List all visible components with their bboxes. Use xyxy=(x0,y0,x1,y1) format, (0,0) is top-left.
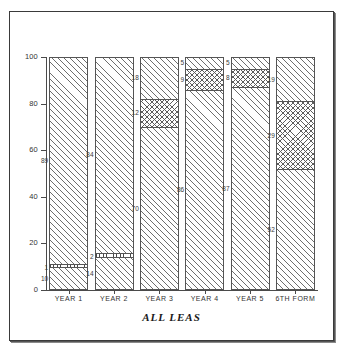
bar-6th-form[interactable]: 192952 xyxy=(276,57,315,290)
segment-value-label: 1 xyxy=(45,265,49,272)
chart-title: ALL LEAS xyxy=(10,311,333,323)
bar-segment: 89 xyxy=(49,57,88,264)
bar-segment: 18 xyxy=(140,57,179,99)
bar-group: 891108421418127059865887192952 xyxy=(46,57,318,290)
y-tick-label: 100 xyxy=(10,53,38,61)
y-tick-label: 80 xyxy=(10,100,38,108)
bar-segment: 52 xyxy=(276,169,315,290)
x-axis-label: 6TH FORM xyxy=(265,295,325,302)
x-tick-mark xyxy=(159,290,160,294)
y-tick-label: 40 xyxy=(10,193,38,201)
segment-value-label: 87 xyxy=(222,186,229,193)
bar-segment: 5 xyxy=(185,57,224,69)
y-tick-label: 60 xyxy=(10,146,38,154)
bar-year-3[interactable]: 181270 xyxy=(140,57,179,290)
bar-year-5[interactable]: 5887 xyxy=(231,57,270,290)
x-tick-mark xyxy=(69,290,70,294)
y-tick-label: 0 xyxy=(10,286,38,294)
bar-segment: 9 xyxy=(185,69,224,90)
bar-year-1[interactable]: 89110 xyxy=(49,57,88,290)
segment-value-label: 5 xyxy=(226,60,230,67)
segment-value-label: 12 xyxy=(132,110,139,117)
segment-value-label: 18 xyxy=(132,75,139,82)
x-tick-mark xyxy=(295,290,296,294)
bar-segment: 86 xyxy=(185,90,224,290)
bar-segment: 29 xyxy=(276,101,315,169)
x-axis-line xyxy=(46,290,318,291)
segment-value-label: 9 xyxy=(181,77,185,84)
segment-value-label: 70 xyxy=(132,206,139,213)
segment-value-label: 5 xyxy=(181,60,185,67)
chart-frame: 020406080100 891108421418127059865887192… xyxy=(9,11,334,341)
bar-segment: 12 xyxy=(140,99,179,127)
bar-year-2[interactable]: 84214 xyxy=(95,57,134,290)
segment-value-label: 84 xyxy=(86,152,93,159)
x-tick-mark xyxy=(205,290,206,294)
bar-segment: 70 xyxy=(140,127,179,290)
segment-value-label: 52 xyxy=(268,227,275,234)
segment-value-label: 14 xyxy=(86,271,93,278)
segment-value-label: 10 xyxy=(41,276,48,283)
segment-value-label: 86 xyxy=(177,187,184,194)
segment-value-label: 2 xyxy=(90,254,94,261)
y-tick-mark xyxy=(41,290,46,291)
bar-segment: 8 xyxy=(231,69,270,88)
segment-value-label: 8 xyxy=(226,75,230,82)
x-tick-mark xyxy=(250,290,251,294)
bar-segment: 19 xyxy=(276,57,315,101)
segment-value-label: 89 xyxy=(41,158,48,165)
segment-value-label: 19 xyxy=(268,77,275,84)
plot-area: 020406080100 891108421418127059865887192… xyxy=(10,12,333,340)
bar-segment: 10 xyxy=(49,267,88,290)
bar-segment: 87 xyxy=(231,87,270,290)
bar-segment: 84 xyxy=(95,57,134,253)
bar-segment: 5 xyxy=(231,57,270,69)
segment-value-label: 29 xyxy=(268,133,275,140)
x-tick-mark xyxy=(114,290,115,294)
bar-segment: 14 xyxy=(95,257,134,290)
y-tick-label: 20 xyxy=(10,239,38,247)
bar-year-4[interactable]: 5986 xyxy=(185,57,224,290)
